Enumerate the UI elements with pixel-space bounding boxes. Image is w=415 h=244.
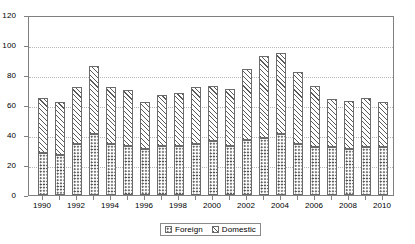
bar-segment-domestic[interactable] bbox=[174, 93, 184, 146]
bar-segment-foreign[interactable] bbox=[72, 144, 82, 195]
bar-segment-domestic[interactable] bbox=[310, 86, 320, 148]
x-tick-mark bbox=[93, 196, 94, 200]
x-tick-mark bbox=[314, 196, 315, 200]
bar-segment-foreign[interactable] bbox=[225, 146, 235, 196]
bar-segment-foreign[interactable] bbox=[242, 140, 252, 196]
bar-segment-foreign[interactable] bbox=[344, 149, 354, 196]
gridline bbox=[29, 77, 393, 78]
y-tick-label: 20 bbox=[0, 162, 16, 170]
bar-segment-foreign[interactable] bbox=[123, 146, 133, 196]
bar-segment-domestic[interactable] bbox=[191, 87, 201, 144]
legend-label-domestic: Domestic bbox=[222, 225, 256, 234]
y-tick-label: 100 bbox=[0, 42, 16, 50]
bar-segment-domestic[interactable] bbox=[123, 90, 133, 146]
bar-segment-foreign[interactable] bbox=[327, 147, 337, 195]
bar-segment-domestic[interactable] bbox=[106, 87, 116, 144]
legend-swatch-domestic bbox=[212, 226, 219, 233]
x-tick-label: 2010 bbox=[362, 201, 402, 210]
bar-segment-foreign[interactable] bbox=[174, 146, 184, 196]
x-tick-mark bbox=[110, 196, 111, 200]
bar-segment-domestic[interactable] bbox=[327, 99, 337, 147]
legend-label-foreign: Foreign bbox=[175, 225, 203, 234]
y-tick-label: 80 bbox=[0, 72, 16, 80]
y-tick-label: 0 bbox=[0, 192, 16, 200]
legend-swatch-foreign bbox=[165, 226, 172, 233]
legend-entry-foreign: Foreign bbox=[165, 225, 203, 234]
bar-segment-domestic[interactable] bbox=[38, 98, 48, 154]
y-tick-mark bbox=[24, 196, 28, 197]
x-tick-mark bbox=[246, 196, 247, 200]
x-tick-mark bbox=[365, 196, 366, 200]
x-tick-mark bbox=[382, 196, 383, 200]
bar-segment-domestic[interactable] bbox=[293, 72, 303, 144]
bar-segment-foreign[interactable] bbox=[89, 134, 99, 196]
x-tick-mark bbox=[178, 196, 179, 200]
x-tick-mark bbox=[263, 196, 264, 200]
bar-segment-domestic[interactable] bbox=[72, 87, 82, 144]
bar-segment-domestic[interactable] bbox=[344, 101, 354, 149]
bar-segment-foreign[interactable] bbox=[310, 147, 320, 195]
bar-segment-foreign[interactable] bbox=[106, 144, 116, 195]
bar-segment-domestic[interactable] bbox=[225, 89, 235, 146]
x-tick-mark bbox=[59, 196, 60, 200]
x-tick-mark bbox=[42, 196, 43, 200]
bar-segment-foreign[interactable] bbox=[140, 149, 150, 196]
x-tick-mark bbox=[212, 196, 213, 200]
x-tick-mark bbox=[195, 196, 196, 200]
x-tick-mark bbox=[280, 196, 281, 200]
bar-segment-foreign[interactable] bbox=[38, 153, 48, 195]
y-tick-label: 40 bbox=[0, 132, 16, 140]
x-tick-mark bbox=[127, 196, 128, 200]
stacked-bar-chart: 020406080100120 199019921994199619982000… bbox=[0, 0, 415, 244]
bar-segment-domestic[interactable] bbox=[259, 56, 269, 139]
bar-segment-foreign[interactable] bbox=[276, 134, 286, 196]
bar-segment-foreign[interactable] bbox=[208, 141, 218, 195]
bar-segment-foreign[interactable] bbox=[293, 144, 303, 195]
plot-area bbox=[28, 16, 394, 196]
bar-segment-domestic[interactable] bbox=[55, 102, 65, 155]
x-tick-mark bbox=[229, 196, 230, 200]
chart-legend: Foreign Domestic bbox=[160, 223, 261, 236]
bar-segment-domestic[interactable] bbox=[276, 53, 286, 134]
x-tick-mark bbox=[144, 196, 145, 200]
x-tick-mark bbox=[76, 196, 77, 200]
bar-segment-domestic[interactable] bbox=[378, 102, 388, 147]
legend-entry-domestic: Domestic bbox=[212, 225, 256, 234]
gridline bbox=[29, 47, 393, 48]
bar-segment-foreign[interactable] bbox=[361, 147, 371, 195]
y-tick-label: 120 bbox=[0, 12, 16, 20]
bar-segment-domestic[interactable] bbox=[89, 66, 99, 134]
bar-segment-domestic[interactable] bbox=[140, 102, 150, 149]
bar-segment-domestic[interactable] bbox=[208, 86, 218, 142]
bar-segment-domestic[interactable] bbox=[242, 69, 252, 140]
x-tick-mark bbox=[161, 196, 162, 200]
y-tick-label: 60 bbox=[0, 102, 16, 110]
bar-segment-foreign[interactable] bbox=[191, 144, 201, 195]
bar-segment-foreign[interactable] bbox=[55, 155, 65, 196]
bar-segment-domestic[interactable] bbox=[157, 95, 167, 146]
bar-segment-foreign[interactable] bbox=[157, 146, 167, 196]
bar-segment-domestic[interactable] bbox=[361, 98, 371, 148]
x-tick-mark bbox=[331, 196, 332, 200]
bar-segment-foreign[interactable] bbox=[378, 147, 388, 195]
x-tick-mark bbox=[348, 196, 349, 200]
x-tick-mark bbox=[297, 196, 298, 200]
bar-segment-foreign[interactable] bbox=[259, 138, 269, 195]
